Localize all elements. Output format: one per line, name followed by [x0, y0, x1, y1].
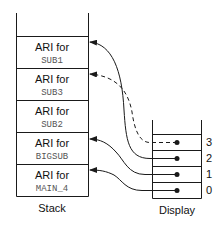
ari-bigsub: ARI for BIGSUB	[35, 137, 70, 162]
display-indices: 3 2 1 0	[206, 136, 212, 196]
display-index: 3	[206, 136, 212, 148]
arrow-display2-to-sub1	[90, 42, 177, 159]
arrow-display3-to-sub3	[90, 74, 177, 143]
pointer-arrows	[90, 42, 177, 191]
ari-sub1: ARI for SUB1	[35, 41, 70, 66]
ari-main4: ARI for MAIN_4	[35, 169, 70, 194]
ari-title: ARI for	[35, 105, 70, 117]
stack-label: Stack	[38, 202, 66, 214]
display-index: 0	[206, 184, 212, 196]
ari-title: ARI for	[35, 169, 70, 181]
ari-title: ARI for	[35, 73, 70, 85]
ari-sub3: ARI for SUB3	[35, 73, 70, 98]
ari-sub2: ARI for SUB2	[35, 105, 70, 130]
display-index: 2	[206, 152, 212, 164]
display-index: 1	[206, 168, 212, 180]
ari-title: ARI for	[35, 41, 70, 53]
ari-name: SUB2	[41, 120, 63, 130]
display-label: Display	[159, 204, 196, 216]
arrow-display0-to-main4	[90, 170, 177, 191]
ari-name: MAIN_4	[36, 184, 68, 194]
ari-name: SUB1	[41, 56, 63, 66]
ari-title: ARI for	[35, 137, 70, 149]
ari-name: SUB3	[41, 88, 63, 98]
display-stack-diagram: ARI for SUB1 ARI for SUB3 ARI for SUB2 A…	[0, 0, 217, 230]
stack-records: ARI for SUB1 ARI for SUB3 ARI for SUB2 A…	[35, 41, 70, 214]
ari-name: BIGSUB	[36, 152, 69, 162]
arrow-display1-to-bigsub	[90, 139, 177, 175]
